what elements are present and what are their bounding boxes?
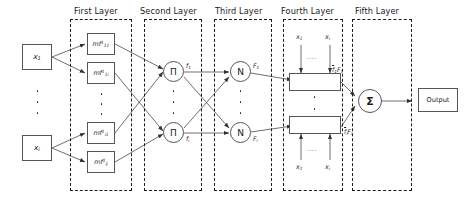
mf-ellipsis	[100, 93, 103, 115]
mf-label-mf1i: mf11i	[93, 69, 108, 77]
edge-label-Fi: Fi	[253, 135, 258, 143]
product-node-top: Π	[163, 61, 184, 82]
input-label-xi: xi	[34, 143, 40, 152]
product-glyph-top: Π	[170, 67, 177, 77]
mf-node-mfi1: mf1i1	[87, 122, 115, 144]
input-node-xi: xi	[22, 135, 52, 161]
defuzz-bottom-feed-ellipsis: ....	[307, 146, 317, 152]
sum-node: Σ	[358, 89, 382, 113]
defuzz-bottom-feed-xi: xi	[325, 163, 330, 171]
mf-node-mf1i: mf11i	[87, 62, 115, 84]
layer-title-fifth: Fifth Layer	[355, 6, 399, 16]
edge-label-f1: f1	[186, 62, 191, 70]
product-node-bottom: Π	[163, 122, 184, 143]
mf-label-mfij: mf1ij	[94, 158, 108, 166]
defuzz-top-feed-ellipsis: ....	[307, 54, 317, 60]
output-label: Output	[427, 96, 450, 104]
defuzz-top-feed-xi: xi	[325, 33, 330, 41]
layer-title-first: First Layer	[74, 6, 118, 16]
input-ellipsis	[36, 90, 39, 114]
normalize-glyph-bottom: N	[237, 128, 244, 138]
sum-glyph: Σ	[366, 95, 374, 108]
edge-label-fi: fi	[186, 135, 189, 143]
defuzz-ellipsis	[313, 96, 316, 110]
input-label-x1: x1	[33, 52, 41, 61]
defuzz-bottom-feed-x1: x1	[296, 163, 303, 171]
layer-title-third: Third Layer	[215, 6, 262, 16]
mf-label-mf11: mf111	[93, 40, 110, 48]
normalize-glyph-top: N	[237, 67, 244, 77]
layer-box-third	[214, 19, 272, 191]
normalize-node-bottom: N	[230, 122, 251, 143]
edge-label-f1F1: f1F1	[332, 66, 343, 74]
input-node-x1: x1	[22, 44, 52, 70]
defuzz-node-bottom	[289, 116, 341, 134]
anfis-diagram: First Layer Second Layer Third Layer Fou…	[0, 0, 465, 203]
edge-label-F1: F1	[253, 62, 259, 70]
normalize-node-top: N	[230, 61, 251, 82]
mf-label-mfi1: mf1i1	[93, 129, 108, 137]
mf-node-mfij: mf1ij	[87, 151, 115, 173]
normalize-ellipsis	[239, 90, 242, 114]
layer-title-fourth: Fourth Layer	[281, 6, 334, 16]
product-glyph-bottom: Π	[170, 128, 177, 138]
defuzz-node-top	[289, 73, 341, 91]
layer-title-second: Second Layer	[140, 6, 197, 16]
defuzz-top-feed-x1: x1	[296, 33, 303, 41]
output-node: Output	[418, 88, 458, 112]
edge-label-fiFi: fiFi	[344, 128, 352, 136]
product-ellipsis	[172, 90, 175, 114]
mf-node-mf11: mf111	[87, 33, 115, 55]
